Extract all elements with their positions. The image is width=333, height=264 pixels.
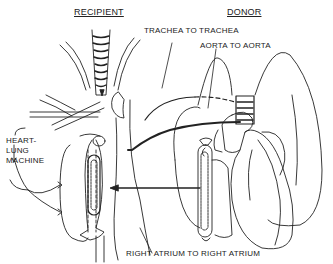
connections xyxy=(110,43,240,253)
recipient-heart-remnant xyxy=(60,92,150,262)
recipient-trachea xyxy=(92,30,110,96)
machine-label-line3: MACHINE xyxy=(6,157,44,165)
aorta-label: AORTA TO AORTA xyxy=(200,42,271,50)
machine-label-line1: HEART- xyxy=(6,137,36,145)
donor-lungs xyxy=(174,52,322,228)
donor-header: DONOR xyxy=(227,8,262,17)
donor-heart xyxy=(198,112,293,249)
machine-label-line2: LUNG xyxy=(6,147,29,155)
atrium-label: RIGHT ATRIUM TO RIGHT ATRIUM xyxy=(126,250,260,258)
donor-trachea xyxy=(236,96,254,124)
diagram-drawing xyxy=(0,0,333,264)
trachea-label: TRACHEA TO TRACHEA xyxy=(144,27,239,35)
heart-lung-transplant-diagram: RECIPIENT DONOR TRACHEA TO TRACHEA AORTA… xyxy=(0,0,333,264)
recipient-header: RECIPIENT xyxy=(74,8,124,17)
